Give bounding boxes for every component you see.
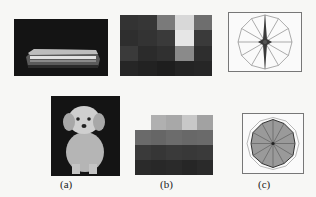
- feature-grid-top: [120, 15, 212, 76]
- polar-polygon-diagram: [242, 113, 304, 174]
- dog-image: [51, 96, 120, 176]
- polar-star-diagram: [228, 12, 302, 72]
- feature-grid-bottom: [135, 115, 213, 175]
- locomotive-image: [14, 19, 108, 76]
- locomotive-illustration: [14, 19, 108, 76]
- dog-illustration: [51, 96, 120, 176]
- caption-b: (b): [160, 178, 173, 190]
- caption-a: (a): [60, 178, 72, 190]
- caption-c: (c): [258, 178, 270, 190]
